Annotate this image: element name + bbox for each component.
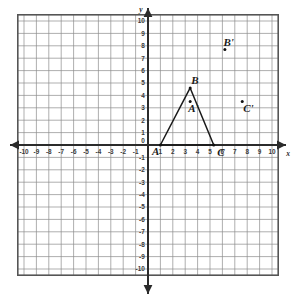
y-tick-label: -4: [139, 191, 145, 198]
x-tick-label: -10: [19, 148, 29, 155]
x-tick-label: -9: [34, 148, 40, 155]
x-tick-label: 10: [268, 148, 276, 155]
x-tick-label: -2: [120, 148, 126, 155]
coordinate-grid-svg: xy-10-9-8-7-6-5-4-3-2-112345678910109876…: [0, 0, 296, 302]
x-tick-label: -4: [96, 148, 102, 155]
x-tick-label: 7: [233, 148, 237, 155]
y-tick-label: 6: [141, 67, 145, 74]
x-tick-label: 4: [196, 148, 200, 155]
x-tick-label: -6: [71, 148, 77, 155]
origin-label: 0: [141, 137, 145, 144]
x-tick-label: -7: [58, 148, 64, 155]
image-point-bprime: [223, 48, 226, 51]
y-tick-label: -6: [139, 216, 145, 223]
y-tick-label: -3: [139, 179, 145, 186]
x-tick-label: 9: [258, 148, 262, 155]
x-tick-label: -1: [133, 148, 139, 155]
y-tick-label: -10: [136, 265, 146, 272]
y-tick-label: -1: [139, 154, 145, 161]
x-tick-label: 2: [171, 148, 175, 155]
y-tick-label: -7: [139, 228, 145, 235]
y-tick-label: 9: [141, 30, 145, 37]
vertex-label-c: C: [217, 146, 225, 158]
y-tick-label: -5: [139, 203, 145, 210]
y-tick-label: -9: [139, 253, 145, 260]
y-tick-label: 8: [141, 42, 145, 49]
vertex-point-a: [159, 144, 162, 147]
y-tick-label: 10: [138, 17, 146, 24]
vertex-label-a: A: [151, 145, 159, 157]
y-tick-label: 2: [141, 117, 145, 124]
x-tick-label: -8: [46, 148, 52, 155]
y-tick-label: 1: [141, 129, 145, 136]
y-tick-label: 5: [141, 79, 145, 86]
y-axis-name: y: [138, 5, 143, 14]
x-tick-label: 3: [183, 148, 187, 155]
x-axis-name: x: [285, 149, 290, 158]
x-tick-label: 5: [208, 148, 212, 155]
vertex-point-b: [189, 86, 192, 89]
y-tick-label: 4: [141, 92, 145, 99]
x-tick-label: 8: [245, 148, 249, 155]
image-point-label-aprime: A': [187, 102, 198, 114]
image-point-label-bprime: B': [222, 36, 233, 48]
y-tick-label: 3: [141, 104, 145, 111]
vertex-label-b: B: [190, 74, 198, 86]
vertex-point-c: [212, 144, 215, 147]
coordinate-plane-figure: xy-10-9-8-7-6-5-4-3-2-112345678910109876…: [0, 0, 296, 302]
y-tick-label: 7: [141, 55, 145, 62]
y-tick-label: -2: [139, 166, 145, 173]
y-tick-label: -8: [139, 241, 145, 248]
image-point-label-cprime: C': [243, 102, 253, 114]
x-tick-label: -3: [108, 148, 114, 155]
x-tick-label: -5: [83, 148, 89, 155]
